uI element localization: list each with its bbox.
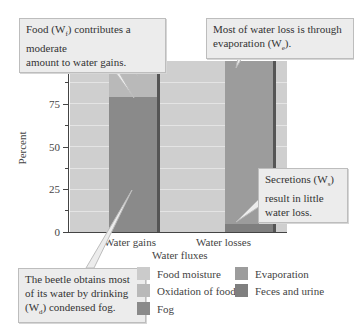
- callout-text: ).: [285, 37, 291, 49]
- callout-text: amount to water gains.: [26, 56, 126, 68]
- legend-item-food-moisture: Food moisture: [137, 267, 221, 280]
- legend-label: Oxidation of food: [157, 285, 236, 297]
- legend-swatch: [235, 267, 248, 280]
- callout-text: water loss.: [265, 206, 312, 218]
- legend-item-fog: Fog: [137, 302, 174, 315]
- callout-food: Food (Wf) contributes a moderate amount …: [19, 18, 166, 73]
- callout-text: result in little: [265, 192, 324, 204]
- callout-text: ): [330, 173, 334, 185]
- legend-item-feces-and-urine: Feces and urine: [235, 284, 324, 297]
- legend-swatch: [137, 267, 150, 280]
- legend-swatch: [137, 284, 150, 297]
- callout-text: evaporation (W: [213, 37, 282, 49]
- legend-label: Fog: [157, 303, 174, 315]
- callout-text: (W: [25, 301, 39, 313]
- callout-secretions: Secretions (Ws) result in little water l…: [258, 168, 348, 223]
- legend-item-oxidation-of-food: Oxidation of food: [137, 284, 236, 297]
- callout-text: The beetle obtains most: [25, 273, 130, 285]
- legend-label: Evaporation: [255, 268, 309, 280]
- callout-text: of its water by drinking: [25, 287, 128, 299]
- legend-item-evaporation: Evaporation: [235, 267, 309, 280]
- callout-text: Most of water loss is through: [213, 23, 342, 35]
- legend-swatch: [137, 302, 150, 315]
- legend-swatch: [235, 284, 248, 297]
- callout-text: Food (W: [26, 23, 65, 35]
- callout-text: ) condensed fog.: [43, 301, 116, 313]
- legend-label: Feces and urine: [255, 285, 324, 297]
- legend-label: Food moisture: [157, 268, 221, 280]
- callout-evaporation: Most of water loss is through evaporatio…: [206, 18, 354, 59]
- callout-text: Secretions (W: [265, 173, 328, 185]
- callout-fog: The beetle obtains most of its water by …: [18, 268, 146, 323]
